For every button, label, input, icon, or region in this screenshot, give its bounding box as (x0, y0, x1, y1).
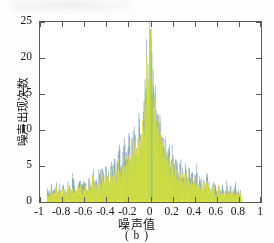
y-tick (40, 166, 45, 167)
x-tick (62, 197, 63, 202)
plot-area (39, 21, 262, 203)
y-tick-right (256, 130, 261, 131)
y-tick (40, 94, 45, 95)
x-tick (106, 197, 107, 202)
x-tick-top (106, 22, 107, 27)
x-tick (128, 197, 129, 202)
x-tick (151, 197, 152, 202)
x-tick (40, 197, 41, 202)
figure-caption: ( b ) (0, 229, 274, 241)
x-tick-top (173, 22, 174, 27)
y-tick-right (256, 94, 261, 95)
x-tick-top (128, 22, 129, 27)
x-tick-top (239, 22, 240, 27)
x-tick (217, 197, 218, 202)
y-axis-title-holder: 噪声出现次数 (2, 21, 26, 203)
x-tick-top (260, 22, 261, 27)
y-axis-title: 噪声出现次数 (14, 56, 30, 168)
x-tick-top (40, 22, 41, 27)
y-tick-right (256, 166, 261, 167)
x-tick (84, 197, 85, 202)
x-tick-top (62, 22, 63, 27)
x-tick (260, 197, 261, 202)
x-tick-top (84, 22, 85, 27)
y-tick (40, 130, 45, 131)
x-tick-top (195, 22, 196, 27)
y-tick (40, 202, 45, 203)
scan-artifact (12, 1, 132, 10)
y-tick (40, 58, 45, 59)
histogram-canvas (40, 22, 261, 202)
y-tick-right (256, 202, 261, 203)
x-tick (173, 197, 174, 202)
figure-container: 0510152025 -1-0.8-0.6-0.4-0.200.20.40.60… (0, 0, 274, 243)
y-tick-right (256, 58, 261, 59)
x-tick (239, 197, 240, 202)
x-tick-top (217, 22, 218, 27)
x-tick-top (151, 22, 152, 27)
x-tick (195, 197, 196, 202)
